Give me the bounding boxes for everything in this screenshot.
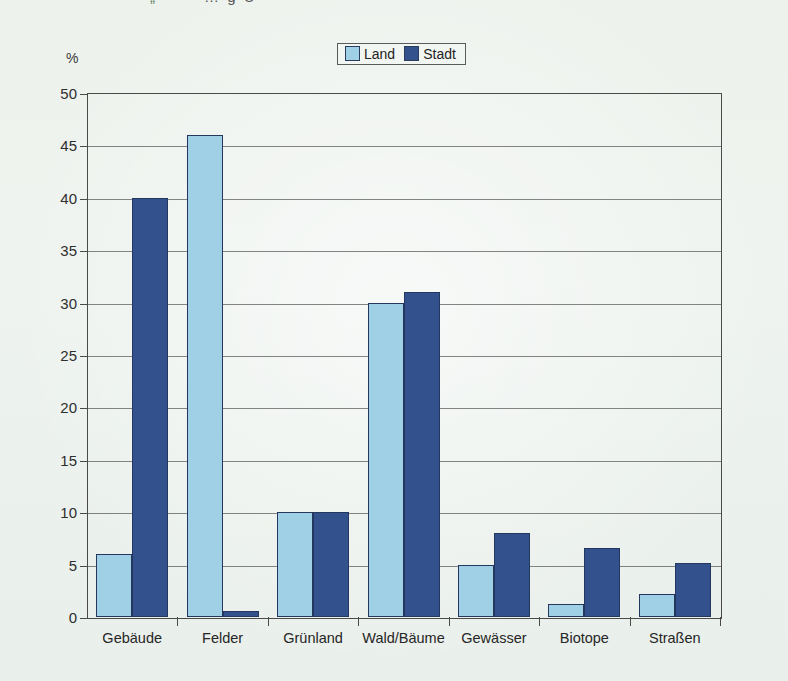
gridline xyxy=(88,146,721,147)
y-axis-tick-label: 35 xyxy=(37,242,77,259)
y-axis-tick xyxy=(80,461,88,462)
y-axis-tick-label: 5 xyxy=(37,556,77,573)
y-axis-tick xyxy=(80,94,88,95)
x-axis-tick xyxy=(539,617,540,626)
gridline xyxy=(88,408,721,409)
legend-label-land: Land xyxy=(364,47,395,61)
y-axis-labels: 05101520253035404550 xyxy=(37,93,77,617)
x-axis-tick xyxy=(630,617,631,626)
x-axis-ticks xyxy=(87,617,720,627)
y-axis-tick xyxy=(80,304,88,305)
x-axis-tick xyxy=(358,617,359,626)
legend-swatch-land xyxy=(345,46,360,61)
gridline xyxy=(88,461,721,462)
y-axis-tick-label: 45 xyxy=(37,137,77,154)
y-axis-unit-label: % xyxy=(66,50,78,66)
x-axis-label-2: Grünland xyxy=(283,630,343,646)
y-axis-tick-label: 30 xyxy=(37,294,77,311)
x-axis-labels: GebäudeFelderGrünlandWald/BäumeGewässerB… xyxy=(87,630,720,656)
x-axis-label-3: Wald/Bäume xyxy=(362,630,444,646)
legend-item-land[interactable]: Land xyxy=(345,46,395,61)
x-axis-label-6: Straßen xyxy=(649,630,701,646)
y-axis-tick xyxy=(80,199,88,200)
plot-area xyxy=(87,93,722,619)
y-axis-tick xyxy=(80,566,88,567)
gridlines xyxy=(88,94,721,618)
y-axis-tick xyxy=(80,408,88,409)
y-axis-tick-label: 25 xyxy=(37,347,77,364)
y-axis-tick xyxy=(80,356,88,357)
x-axis-tick xyxy=(177,617,178,626)
bar-chart: % Land Stadt 05101520253035404550 Gebäud… xyxy=(0,0,788,681)
y-axis-tick-label: 15 xyxy=(37,451,77,468)
y-axis-tick-label: 20 xyxy=(37,399,77,416)
gridline xyxy=(88,356,721,357)
y-axis-tick xyxy=(80,513,88,514)
x-axis-label-0: Gebäude xyxy=(102,630,162,646)
gridline xyxy=(88,513,721,514)
legend-label-stadt: Stadt xyxy=(423,47,456,61)
chart-page: „“… g Ü % Land Stadt 0510152025303540455… xyxy=(0,0,788,681)
gridline xyxy=(88,304,721,305)
x-axis-tick xyxy=(268,617,269,626)
legend-item-stadt[interactable]: Stadt xyxy=(404,46,456,61)
x-axis-label-5: Biotope xyxy=(560,630,609,646)
x-axis-label-4: Gewässer xyxy=(461,630,526,646)
y-axis-tick xyxy=(80,251,88,252)
x-axis-tick xyxy=(720,617,721,626)
y-axis-tick-label: 50 xyxy=(37,85,77,102)
gridline xyxy=(88,199,721,200)
gridline xyxy=(88,251,721,252)
y-axis-tick-label: 10 xyxy=(37,504,77,521)
x-axis-label-1: Felder xyxy=(202,630,243,646)
gridline xyxy=(88,566,721,567)
chart-legend: Land Stadt xyxy=(337,43,466,65)
y-axis-tick-label: 0 xyxy=(37,609,77,626)
x-axis-tick xyxy=(449,617,450,626)
legend-swatch-stadt xyxy=(404,46,419,61)
y-axis-tick xyxy=(80,146,88,147)
y-axis-tick-label: 40 xyxy=(37,189,77,206)
